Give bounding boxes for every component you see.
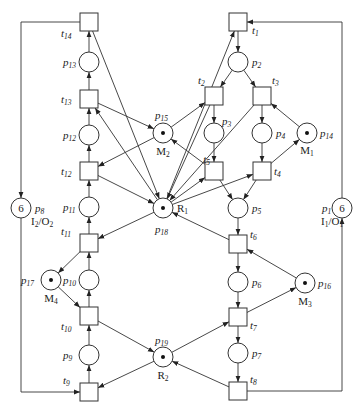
label-p13: p13 (62, 56, 76, 70)
transition-t8[interactable] (229, 382, 247, 400)
place-p11[interactable] (79, 197, 99, 217)
io-label-p8: I2/O2 (31, 215, 53, 229)
arc-p18-to-t11 (98, 212, 154, 238)
transition-t1[interactable] (229, 13, 247, 31)
transition-t10[interactable] (80, 307, 98, 325)
arc-p2-to-t2 (220, 70, 232, 87)
resource-label-p14: M1 (300, 144, 314, 158)
arc-t12-to-p18 (98, 176, 154, 204)
arc-p14-to-t3 (271, 103, 299, 126)
place-p8[interactable]: 6 (11, 198, 31, 218)
place-circle (79, 345, 99, 365)
label-t13: t13 (61, 93, 72, 107)
place-p5[interactable] (228, 198, 248, 218)
label-p8: p8 (34, 202, 45, 216)
label-layer: p1I1/O1p2p3p4p5p6p7p8I2/O2p9p10p11p12p13… (20, 24, 343, 388)
label-t10: t10 (61, 320, 72, 334)
transition-t7[interactable] (229, 308, 247, 326)
label-p11: p11 (62, 201, 75, 215)
label-t3: t3 (272, 74, 279, 88)
label-t4: t4 (274, 165, 281, 179)
place-p12[interactable] (79, 125, 99, 145)
place-circle (228, 198, 248, 218)
place-p3[interactable] (204, 123, 224, 143)
token-dot-icon (49, 278, 53, 282)
token-dot-icon (303, 281, 307, 285)
transition-t4[interactable] (253, 162, 271, 180)
place-circle (79, 270, 99, 290)
arc-t8-to-p19 (172, 361, 229, 387)
resource-label-p19: R2 (157, 369, 168, 383)
arc-p15-to-t12 (98, 138, 154, 167)
transition-t9[interactable] (80, 383, 98, 401)
place-p13[interactable] (79, 52, 99, 72)
transition-t2[interactable] (205, 87, 223, 105)
place-circle (228, 343, 248, 363)
arc-p8-to-t9 (21, 218, 80, 392)
place-p6[interactable] (228, 272, 248, 292)
petri-net-diagram: 66 p1I1/O1p2p3p4p5p6p7p8I2/O2p9p10p11p12… (0, 0, 362, 409)
arc-t4-to-p14 (271, 139, 299, 163)
label-p6: p6 (251, 276, 262, 290)
arc-t4-to-p5 (243, 180, 256, 200)
token-dot-icon (161, 206, 165, 210)
label-p1: p1 (321, 202, 331, 216)
transition-t14[interactable] (80, 13, 98, 31)
token-count: 6 (18, 202, 24, 214)
arc-t14-to-p18 (93, 31, 160, 199)
petri-net-svg: 66 p1I1/O1p2p3p4p5p6p7p8I2/O2p9p10p11p12… (0, 0, 362, 409)
place-p19[interactable] (153, 347, 173, 367)
arc-p15-to-t2 (171, 103, 205, 128)
arc-t7-to-p16 (247, 288, 296, 313)
transition-t12[interactable] (80, 162, 98, 180)
place-p2[interactable] (228, 52, 248, 72)
place-p4[interactable] (252, 123, 272, 143)
arc-t11-to-p17 (58, 252, 80, 273)
label-p16: p16 (317, 277, 331, 291)
place-circle (79, 125, 99, 145)
arc-t10-to-p19 (98, 321, 154, 352)
arc-t6-to-p18 (172, 212, 229, 239)
label-p2: p2 (251, 56, 262, 70)
label-p19: p19 (154, 334, 168, 348)
place-circle (79, 52, 99, 72)
arc-t8-to-p1 (247, 218, 342, 391)
place-circle (228, 272, 248, 292)
place-p9[interactable] (79, 345, 99, 365)
label-t2: t2 (198, 74, 205, 88)
arc-p19-to-t9 (98, 361, 154, 387)
place-circle (79, 197, 99, 217)
transition-t11[interactable] (80, 234, 98, 252)
place-p15[interactable] (153, 123, 173, 143)
place-p10[interactable] (79, 270, 99, 290)
resource-label-p17: M4 (44, 292, 58, 306)
label-p4: p4 (275, 127, 286, 141)
place-p16[interactable] (295, 273, 315, 293)
place-p18[interactable] (153, 198, 173, 218)
token-dot-icon (161, 355, 165, 359)
place-p14[interactable] (297, 123, 317, 143)
transition-t3[interactable] (253, 87, 271, 105)
place-circle (204, 123, 224, 143)
arc-p2-to-t3 (244, 70, 256, 87)
token-dot-icon (161, 131, 165, 135)
arc-p19-to-t7 (172, 322, 229, 352)
label-p3: p3 (221, 115, 232, 129)
label-p15: p15 (154, 109, 168, 123)
resource-label-p18: R1 (177, 202, 188, 216)
token-dot-icon (305, 131, 309, 135)
arc-p18-to-t13 (95, 108, 157, 200)
arc-p17-to-t10 (58, 287, 80, 308)
transition-t13[interactable] (80, 90, 98, 108)
label-p12: p12 (62, 129, 76, 143)
label-p7: p7 (251, 347, 262, 361)
label-p9: p9 (62, 349, 73, 363)
place-circle (228, 52, 248, 72)
arc-p16-to-t6 (247, 249, 296, 278)
place-p7[interactable] (228, 343, 248, 363)
label-t7: t7 (250, 319, 257, 333)
label-t11: t11 (61, 225, 71, 239)
transition-t6[interactable] (229, 235, 247, 253)
label-p5: p5 (251, 202, 262, 216)
place-p17[interactable] (41, 270, 61, 290)
